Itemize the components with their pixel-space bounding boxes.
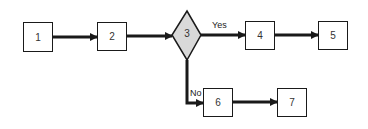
edge-label-no: No xyxy=(190,88,202,98)
process-box-4: 4 xyxy=(245,21,275,50)
process-box-6: 6 xyxy=(203,88,233,117)
node-label: 1 xyxy=(35,32,41,43)
connectors xyxy=(0,0,368,129)
flowchart: 1 2 3 4 5 6 7 Yes No xyxy=(0,0,368,129)
node-label: 5 xyxy=(330,30,336,41)
process-box-2: 2 xyxy=(97,22,127,51)
node-label: 2 xyxy=(109,31,115,42)
process-box-7: 7 xyxy=(277,88,307,117)
edge-label-yes: Yes xyxy=(212,20,227,30)
node-label: 4 xyxy=(257,30,263,41)
node-label: 7 xyxy=(289,97,295,108)
node-label: 6 xyxy=(215,97,221,108)
process-box-1: 1 xyxy=(23,22,53,52)
process-box-5: 5 xyxy=(318,21,348,50)
decision-label-3: 3 xyxy=(177,28,197,39)
